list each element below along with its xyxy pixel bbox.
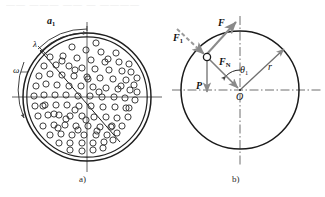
charge-ball — [106, 67, 112, 73]
charge-ball — [56, 140, 62, 146]
label-force-F1: F1 — [173, 33, 183, 43]
charge-ball — [54, 82, 60, 88]
charge-ball — [72, 107, 78, 113]
charge-ball — [96, 89, 102, 95]
charge-ball — [31, 93, 37, 99]
charge-ball — [41, 63, 47, 69]
charge-ball — [43, 81, 49, 87]
charge-ball — [104, 132, 110, 138]
charge-ball — [100, 104, 106, 110]
charge-ball — [91, 114, 97, 120]
charge-ball — [67, 147, 73, 153]
caption-panel-a: a) — [79, 174, 86, 184]
charge-ball — [47, 54, 53, 60]
charge-ball — [113, 50, 119, 56]
panel-b-group — [172, 16, 322, 166]
charge-ball — [103, 114, 109, 120]
charge-ball — [45, 112, 51, 118]
charge-ball — [33, 83, 39, 89]
charge-ball — [81, 132, 87, 138]
charge-ball — [76, 103, 82, 109]
figure-root: —— ——— —— — ———— — [0, 0, 325, 197]
charge-ball — [112, 104, 118, 110]
charge-ball — [90, 84, 96, 90]
a1-dimension-arc-outer — [38, 29, 87, 49]
charge-ball — [36, 73, 42, 79]
charge-ball — [100, 145, 106, 151]
charge-ball — [78, 83, 84, 89]
charge-ball — [116, 59, 122, 65]
charge-ball — [101, 139, 107, 145]
charge-ball — [35, 113, 41, 119]
charge-ball — [74, 55, 80, 61]
charge-ball — [110, 137, 116, 143]
charge-ball — [134, 75, 140, 81]
charge-ball — [83, 47, 89, 53]
a1-dimension-arc — [40, 33, 87, 52]
charge-ball — [85, 123, 91, 129]
charge-ball — [97, 75, 103, 81]
charge-ball — [127, 87, 133, 93]
charge-ball — [53, 102, 59, 108]
charge-ball — [122, 95, 128, 101]
label-radius-r: r — [268, 62, 272, 72]
charge-ball — [32, 103, 38, 109]
label-a1: a1 — [47, 16, 55, 26]
charge-ball — [79, 140, 85, 146]
charge-ball — [88, 57, 94, 63]
ball-on-shell — [203, 53, 210, 60]
charge-ball — [53, 62, 59, 68]
charge-ball — [119, 68, 125, 74]
label-weight-P: P — [196, 81, 202, 91]
charge-ball — [67, 140, 73, 146]
charge-ball — [123, 77, 129, 83]
charge-ball — [62, 122, 68, 128]
label-force-F: F — [218, 18, 225, 28]
charge-ball — [79, 148, 85, 154]
charge-ball — [83, 117, 89, 123]
label-theta1: θ1 — [240, 65, 248, 75]
caption-panel-b: b) — [232, 174, 240, 184]
label-omega: ω — [13, 66, 19, 75]
charge-ball — [114, 130, 120, 136]
charge-ball — [93, 132, 99, 138]
charge-ball — [134, 89, 140, 95]
charge-ball — [114, 115, 120, 121]
charge-ball — [40, 103, 46, 109]
charge-ball — [98, 49, 104, 55]
charge-ball — [79, 65, 85, 71]
charge-ball — [126, 61, 132, 67]
charge-ball — [85, 76, 91, 82]
charge-ball — [93, 40, 99, 46]
charge-ball — [58, 131, 64, 137]
charge-ball — [66, 63, 72, 69]
charge-ball — [90, 140, 96, 146]
charge-ball — [110, 76, 116, 82]
label-force-FN: FN — [219, 57, 230, 67]
charge-ball — [64, 102, 70, 108]
charge-ball — [119, 123, 125, 129]
charge-ball — [47, 132, 53, 138]
label-center-O: O — [236, 92, 243, 102]
charge-ball — [92, 66, 98, 72]
figure-canvas — [0, 0, 325, 197]
charge-ball — [69, 132, 75, 138]
charge-ball — [72, 67, 78, 73]
charge-ball — [103, 85, 109, 91]
charge-ball — [79, 113, 85, 119]
charge-ball — [40, 123, 46, 129]
charge-ball — [125, 114, 131, 120]
charge-ball — [71, 73, 77, 79]
charge-ball — [47, 71, 53, 77]
theta1-angle-arc — [226, 70, 240, 76]
label-lambda: λ — [33, 40, 37, 49]
charge-ball — [90, 147, 96, 153]
charge-ball — [132, 97, 138, 103]
charge-ball — [69, 44, 75, 50]
charge-ball — [87, 93, 93, 99]
charge-ball — [128, 69, 134, 75]
